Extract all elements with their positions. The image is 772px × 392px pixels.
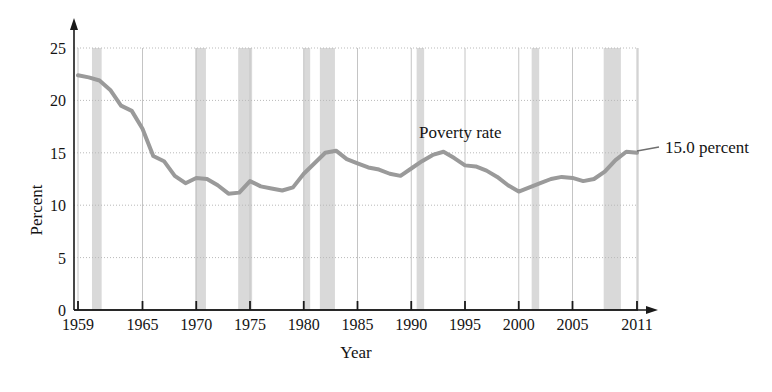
x-tick-label: 1990 [395,316,427,333]
recession-band [532,48,540,310]
x-tick-label: 1985 [342,316,374,333]
x-axis-title: Year [340,343,372,362]
x-tick-label: 1975 [234,316,266,333]
y-axis-title: Percent [27,184,46,235]
y-tick-label: 15 [50,145,66,162]
endpoint-value-label: 15.0 percent [665,138,749,157]
x-tick-label: 2011 [621,316,652,333]
recession-bands-group [92,48,621,310]
endpoint-leader-line [637,147,659,151]
x-axis-arrowhead [646,306,658,314]
y-tick-labels-group: 0510152025 [50,40,66,319]
y-tick-label: 5 [58,250,66,267]
x-tick-marks-group [78,301,637,310]
x-tick-label: 2000 [503,316,535,333]
recession-band [604,48,621,310]
y-tick-label: 20 [50,92,66,109]
recession-band [320,48,335,310]
y-axis-arrowhead [70,18,78,30]
x-tick-label: 1959 [62,316,94,333]
x-tick-label: 1965 [127,316,159,333]
chart-canvas: 1959196519701975198019851990199520002005… [0,0,772,392]
poverty-rate-chart: 1959196519701975198019851990199520002005… [0,0,772,392]
series-inline-label: Poverty rate [419,123,502,142]
x-tick-label: 1970 [180,316,212,333]
recession-band [417,48,425,310]
y-tick-label: 25 [50,40,66,57]
recession-band [304,48,310,310]
y-tick-label: 10 [50,197,66,214]
x-tick-label: 1995 [449,316,481,333]
recession-band [92,48,102,310]
x-tick-labels-group: 1959196519701975198019851990199520002005… [62,316,653,333]
x-tick-label: 1980 [288,316,320,333]
x-tick-label: 2005 [557,316,589,333]
y-tick-label: 0 [58,302,66,319]
